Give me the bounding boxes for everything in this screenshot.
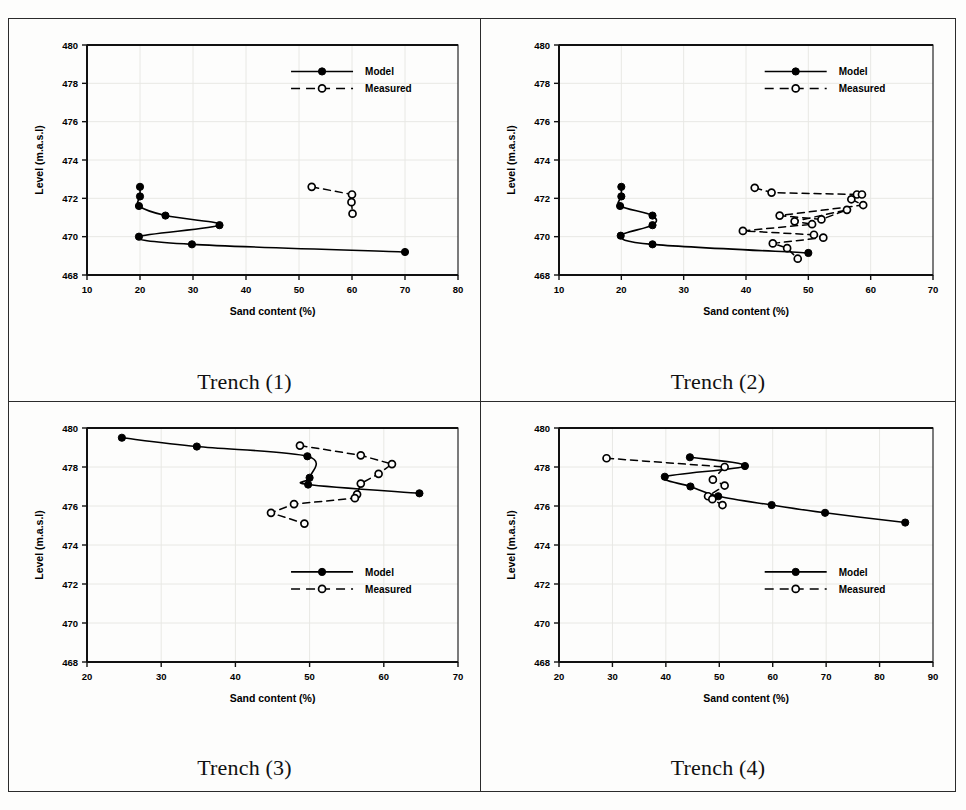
data-point-measured[interactable] bbox=[768, 189, 775, 196]
data-point-model[interactable] bbox=[661, 473, 668, 480]
data-point-model[interactable] bbox=[649, 222, 656, 229]
data-point-model[interactable] bbox=[216, 222, 223, 229]
data-point-model[interactable] bbox=[821, 509, 828, 516]
data-point-model[interactable] bbox=[118, 434, 125, 441]
data-point-measured[interactable] bbox=[791, 218, 798, 225]
data-point-model[interactable] bbox=[618, 193, 625, 200]
data-point-measured[interactable] bbox=[357, 452, 364, 459]
data-point-measured[interactable] bbox=[375, 470, 382, 477]
gridlines bbox=[559, 45, 933, 275]
data-point-model[interactable] bbox=[741, 462, 748, 469]
data-point-model[interactable] bbox=[135, 202, 142, 209]
legend: ModelMeasured bbox=[765, 66, 886, 94]
data-point-model[interactable] bbox=[193, 443, 200, 450]
data-point-measured[interactable] bbox=[794, 255, 801, 262]
data-point-measured[interactable] bbox=[860, 202, 867, 209]
data-point-measured[interactable] bbox=[810, 231, 817, 238]
data-point-model[interactable] bbox=[136, 183, 143, 190]
data-point-measured[interactable] bbox=[291, 501, 298, 508]
data-point-model[interactable] bbox=[306, 474, 313, 481]
data-point-measured[interactable] bbox=[769, 240, 776, 247]
data-point-model[interactable] bbox=[304, 453, 311, 460]
data-point-model[interactable] bbox=[687, 483, 694, 490]
data-point-measured[interactable] bbox=[388, 461, 395, 468]
chart-group-trench4: 4684704724744764784802030405060708090San… bbox=[505, 423, 938, 704]
series-measured bbox=[268, 442, 396, 527]
data-point-measured[interactable] bbox=[776, 212, 783, 219]
data-point-measured[interactable] bbox=[751, 184, 758, 191]
y-tick-label: 472 bbox=[62, 193, 78, 204]
data-point-measured[interactable] bbox=[739, 227, 746, 234]
data-point-measured[interactable] bbox=[858, 191, 865, 198]
series-measured bbox=[308, 183, 356, 217]
data-point-measured[interactable] bbox=[784, 245, 791, 252]
measured-line bbox=[271, 446, 392, 524]
data-point-measured[interactable] bbox=[349, 210, 356, 217]
y-tick-label: 468 bbox=[534, 657, 550, 668]
x-tick-label: 60 bbox=[347, 284, 358, 295]
y-tick-label: 480 bbox=[62, 423, 78, 434]
data-point-model[interactable] bbox=[305, 481, 312, 488]
measured-line bbox=[312, 187, 353, 214]
chart-trench-2: 46847047247447647848010203040506070Sand … bbox=[481, 19, 955, 337]
y-tick-label: 472 bbox=[534, 193, 550, 204]
x-tick-label: 30 bbox=[188, 284, 199, 295]
legend-model-marker bbox=[318, 68, 325, 75]
y-tick-label: 474 bbox=[534, 540, 551, 551]
data-point-model[interactable] bbox=[416, 490, 423, 497]
data-point-model[interactable] bbox=[649, 212, 656, 219]
x-tick-label: 80 bbox=[453, 284, 464, 295]
data-point-measured[interactable] bbox=[308, 183, 315, 190]
y-axis-title: Level (m.a.s.l) bbox=[505, 510, 517, 579]
data-point-measured[interactable] bbox=[820, 234, 827, 241]
data-point-model[interactable] bbox=[162, 212, 169, 219]
data-point-measured[interactable] bbox=[721, 482, 728, 489]
data-point-measured[interactable] bbox=[351, 495, 358, 502]
data-point-model[interactable] bbox=[618, 183, 625, 190]
data-point-measured[interactable] bbox=[809, 221, 816, 228]
data-point-measured[interactable] bbox=[818, 216, 825, 223]
data-point-measured[interactable] bbox=[709, 476, 716, 483]
x-tick-label: 30 bbox=[156, 671, 167, 682]
legend-model-label: Model bbox=[839, 66, 868, 77]
data-point-model[interactable] bbox=[649, 241, 656, 248]
data-point-model[interactable] bbox=[617, 232, 624, 239]
panel-trench-2: 46847047247447647848010203040506070Sand … bbox=[481, 19, 955, 401]
legend-measured-label: Measured bbox=[365, 83, 412, 94]
data-point-measured[interactable] bbox=[296, 442, 303, 449]
data-point-measured[interactable] bbox=[719, 502, 726, 509]
data-point-model[interactable] bbox=[902, 519, 909, 526]
x-tick-label: 70 bbox=[400, 284, 411, 295]
panel-trench-3: 468470472474476478480203040506070Sand co… bbox=[9, 402, 480, 791]
data-point-measured[interactable] bbox=[709, 496, 716, 503]
x-tick-label: 30 bbox=[678, 284, 689, 295]
x-tick-label: 10 bbox=[554, 284, 565, 295]
data-point-measured[interactable] bbox=[349, 191, 356, 198]
data-point-measured[interactable] bbox=[721, 464, 728, 471]
data-point-model[interactable] bbox=[768, 501, 775, 508]
data-point-model[interactable] bbox=[401, 248, 408, 255]
data-point-measured[interactable] bbox=[843, 206, 850, 213]
legend-model-label: Model bbox=[365, 66, 394, 77]
data-point-model[interactable] bbox=[188, 241, 195, 248]
plot-area-trench-4: 4684704724744764784802030405060708090San… bbox=[481, 402, 955, 720]
data-point-measured[interactable] bbox=[357, 480, 364, 487]
data-point-model[interactable] bbox=[136, 193, 143, 200]
x-tick-label: 20 bbox=[616, 284, 627, 295]
data-point-model[interactable] bbox=[686, 454, 693, 461]
data-point-measured[interactable] bbox=[348, 199, 355, 206]
panel-caption-trench-1: Trench (1) bbox=[9, 369, 480, 395]
x-axis-title: Sand content (%) bbox=[703, 305, 789, 317]
data-point-measured[interactable] bbox=[848, 196, 855, 203]
data-point-measured[interactable] bbox=[268, 509, 275, 516]
data-point-measured[interactable] bbox=[301, 520, 308, 527]
data-point-model[interactable] bbox=[805, 249, 812, 256]
data-point-model[interactable] bbox=[616, 202, 623, 209]
data-point-measured[interactable] bbox=[603, 455, 610, 462]
data-point-model[interactable] bbox=[135, 233, 142, 240]
y-axis-title: Level (m.a.s.l) bbox=[33, 510, 45, 579]
chart-group-trench1: 4684704724744764784801020304050607080San… bbox=[33, 40, 463, 317]
x-tick-label: 40 bbox=[241, 284, 252, 295]
legend-measured-marker bbox=[319, 85, 326, 92]
legend-measured-marker bbox=[319, 585, 326, 592]
